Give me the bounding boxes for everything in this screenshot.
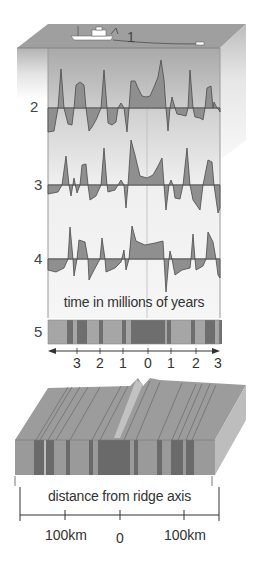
- label-ship-survey: 1: [127, 29, 135, 45]
- distance-axis-caption: distance from ridge axis: [20, 488, 219, 504]
- time-axis-caption: time in millions of years: [48, 294, 220, 310]
- distance-tick-100km-left: 100km: [45, 527, 85, 543]
- label-stripe-band: 5: [34, 323, 42, 340]
- distance-tick-100km-right: 100km: [164, 527, 204, 543]
- time-tick-3-right: 3: [203, 355, 233, 371]
- magnetic-stripe-band: [48, 320, 222, 344]
- label-profile-4: 4: [34, 250, 42, 267]
- ocean-crust-block: [15, 378, 246, 475]
- label-profile-3: 3: [34, 176, 42, 193]
- distance-tick-0: 0: [105, 530, 135, 546]
- label-profile-2: 2: [30, 98, 38, 115]
- diagram-stage: 1 2 3 4 5 time in millions of years 3 2 …: [0, 0, 265, 575]
- time-axis: [48, 348, 220, 354]
